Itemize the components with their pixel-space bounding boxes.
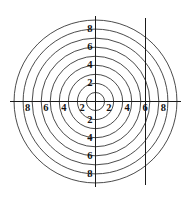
- x-tick-label-pos4: 4: [124, 102, 130, 113]
- y-tick-label-pos8: 8: [87, 23, 92, 34]
- x-tick-label-neg4: 4: [61, 102, 67, 113]
- y-tick-label-neg8: 8: [87, 168, 92, 179]
- contour-figure: 8642246886422468: [0, 0, 189, 201]
- x-tick-label-neg2: 2: [79, 102, 84, 113]
- y-tick-label-neg4: 4: [87, 132, 93, 143]
- y-tick-label-pos2: 2: [87, 77, 92, 88]
- x-tick-label-pos6: 6: [143, 102, 148, 113]
- x-tick-label-pos2: 2: [106, 102, 111, 113]
- x-tick-label-neg8: 8: [25, 102, 30, 113]
- x-tick-label-pos8: 8: [161, 102, 166, 113]
- contour-plot-svg: 8642246886422468: [0, 0, 189, 201]
- y-tick-label-neg2: 2: [87, 114, 92, 125]
- y-tick-label-pos4: 4: [87, 59, 93, 70]
- x-tick-label-neg6: 6: [43, 102, 48, 113]
- y-tick-label-neg6: 6: [87, 150, 92, 161]
- y-tick-label-pos6: 6: [87, 41, 92, 52]
